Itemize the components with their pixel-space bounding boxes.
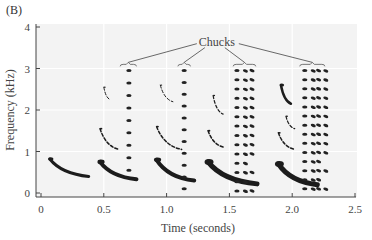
x-tick-label: 0.5: [97, 203, 111, 215]
x-tick-label: 0: [38, 203, 44, 215]
y-tick-label: 3: [25, 63, 31, 75]
x-tick-label: 2.0: [285, 203, 299, 215]
spectrogram-chart: Chucks 00.51.01.52.02.501234 Time (secon…: [0, 0, 372, 240]
x-axis-label: Time (seconds): [161, 221, 235, 235]
y-tick-label: 0: [25, 187, 31, 199]
x-tick-label: 2.5: [348, 203, 362, 215]
y-tick-label: 1: [25, 146, 31, 158]
x-tick-label: 1.5: [223, 203, 237, 215]
y-axis-label: Frequency (kHz): [3, 69, 17, 151]
chucks-label: Chucks: [199, 35, 235, 49]
y-tick-label: 4: [25, 21, 31, 33]
x-tick-label: 1.0: [160, 203, 174, 215]
y-tick-label: 2: [25, 104, 31, 116]
